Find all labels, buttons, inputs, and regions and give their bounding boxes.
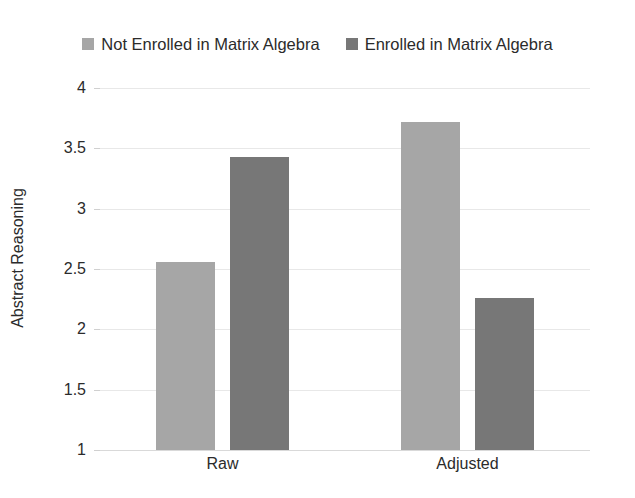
bar[interactable] bbox=[475, 298, 534, 450]
y-axis-tick-label: 1.5 bbox=[64, 381, 86, 399]
y-axis-tick-labels: 43.532.521.51 bbox=[36, 88, 96, 450]
y-axis-tick-label: 3.5 bbox=[64, 139, 86, 157]
plot-area bbox=[100, 88, 590, 450]
legend-label-not-enrolled: Not Enrolled in Matrix Algebra bbox=[101, 35, 319, 53]
legend-label-enrolled: Enrolled in Matrix Algebra bbox=[365, 35, 553, 53]
y-axis-tick-label: 2.5 bbox=[64, 260, 86, 278]
bars-layer bbox=[100, 88, 590, 450]
bar[interactable] bbox=[401, 122, 460, 450]
y-axis-tick-label: 4 bbox=[77, 79, 86, 97]
gridline bbox=[100, 450, 590, 451]
chart-legend: Not Enrolled in Matrix Algebra Enrolled … bbox=[0, 30, 635, 58]
bar[interactable] bbox=[230, 157, 289, 450]
x-axis-tick-label: Adjusted bbox=[436, 455, 498, 473]
bar[interactable] bbox=[156, 262, 215, 450]
y-axis-title: Abstract Reasoning bbox=[0, 0, 36, 498]
y-axis-tick-label: 1 bbox=[77, 441, 86, 459]
legend-entry-not-enrolled[interactable]: Not Enrolled in Matrix Algebra bbox=[82, 35, 319, 53]
y-axis-tick-mark bbox=[94, 450, 100, 451]
legend-swatch-enrolled bbox=[346, 38, 358, 50]
y-axis-tick-label: 2 bbox=[77, 320, 86, 338]
y-axis-title-text: Abstract Reasoning bbox=[9, 188, 27, 328]
legend-entry-enrolled[interactable]: Enrolled in Matrix Algebra bbox=[346, 35, 553, 53]
legend-swatch-not-enrolled bbox=[82, 38, 94, 50]
bar-chart-figure: Not Enrolled in Matrix Algebra Enrolled … bbox=[0, 0, 635, 498]
x-axis-tick-labels: RawAdjusted bbox=[100, 455, 590, 483]
x-axis-tick-label: Raw bbox=[206, 455, 238, 473]
y-axis-tick-label: 3 bbox=[77, 200, 86, 218]
